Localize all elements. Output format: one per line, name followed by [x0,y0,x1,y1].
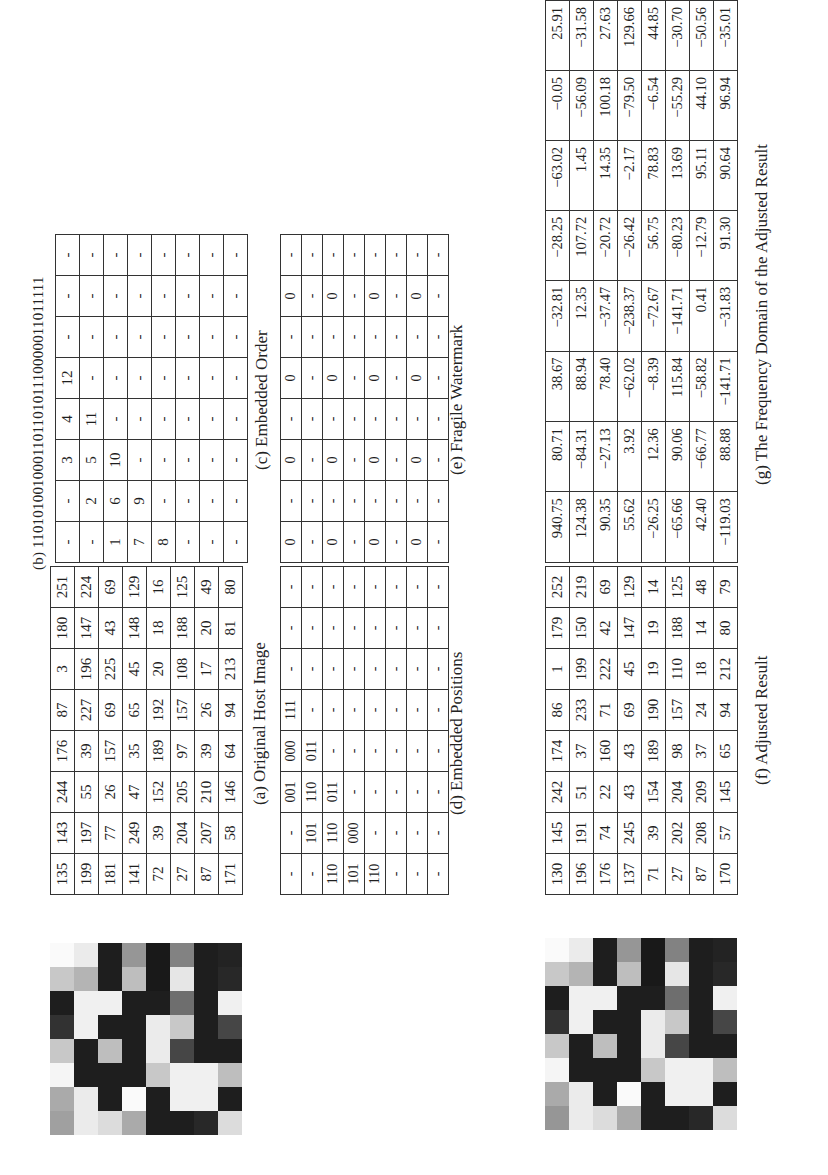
table-cell: −58.82 [690,351,714,422]
table-cell: 0 [281,522,302,563]
pixel [689,1034,713,1058]
table-cell: - [56,481,80,522]
table-cell: 87 [195,854,219,895]
table-cell: - [386,567,407,608]
adjusted-result-table: 1301452421748611792521961915137233199150… [545,566,738,895]
pixel [170,991,194,1015]
table-cell: 207 [195,813,219,854]
pixel [713,1034,737,1058]
table-cell: 204 [171,813,195,854]
table-cell: −35.01 [714,1,738,71]
table-row: −65.6690.06115.84−141.71−80.2313.69−55.2… [666,1,690,563]
table-cell: 124.38 [570,492,594,563]
pixel [194,1063,218,1087]
table-cell: - [152,276,176,317]
table-cell: 18 [690,649,714,690]
table-cell: - [365,399,386,440]
table-cell: 81 [219,608,243,649]
pixel [218,943,242,967]
pixel [617,986,641,1010]
table-cell: - [104,358,128,399]
table-cell: - [344,317,365,358]
table-cell: 110 [666,649,690,690]
table-cell: 3 [56,440,80,481]
table-cell: 130 [546,854,570,895]
table-row: 101000------ [344,567,365,895]
table-cell: - [176,276,200,317]
table-cell: - [407,854,428,895]
table-cell: 222 [594,649,618,690]
table-cell: −31.58 [570,1,594,71]
table-cell: 22 [594,772,618,813]
table-cell: - [386,440,407,481]
table-cell: - [152,235,176,276]
pixel [98,1111,122,1135]
table-cell: 19 [642,649,666,690]
table-row: --001000111--- [281,567,302,895]
table-cell: - [428,481,449,522]
table-cell: - [323,317,344,358]
table-cell: 44.85 [642,1,666,71]
pixel [98,1063,122,1087]
table-cell: 86 [546,690,570,731]
pixel [713,1106,737,1130]
table-cell: −30.70 [666,1,690,71]
table-cell: 157 [99,731,123,772]
table-cell: 192 [147,690,171,731]
table-cell: - [407,608,428,649]
table-cell: 157 [171,690,195,731]
table-cell: 13.69 [666,140,690,210]
table-cell: 72 [147,854,171,895]
table-cell: - [428,731,449,772]
table-cell: 147 [618,608,642,649]
table-row: -------- [428,235,449,563]
table-cell: - [200,358,224,399]
table-cell: 49 [195,567,219,608]
pixel [593,1034,617,1058]
table-cell: - [56,276,80,317]
table-cell: 0 [323,276,344,317]
table-cell: 2 [80,481,104,522]
pixel [569,1010,593,1034]
table-cell: - [386,481,407,522]
pixel [122,967,146,991]
table-cell: - [365,690,386,731]
table-cell: - [152,399,176,440]
pixel [146,1039,170,1063]
table-cell: - [344,440,365,481]
table-cell: 129 [618,567,642,608]
table-cell: 55 [75,772,99,813]
table-cell: - [200,399,224,440]
table-cell: - [386,358,407,399]
table-cell: - [428,235,449,276]
table-cell: 1 [104,522,128,563]
pixel [74,967,98,991]
table-cell: 39 [195,731,219,772]
adjusted-result-image-pixels [545,938,737,1130]
table-cell: - [344,481,365,522]
table-cell: - [80,358,104,399]
table-cell: - [323,481,344,522]
table-cell: - [407,317,428,358]
pixel [194,991,218,1015]
table-cell: 227 [75,690,99,731]
caption-e: (e) Fragile Watermark [447,325,467,475]
table-cell: −12.79 [690,210,714,280]
table-cell: 208 [690,813,714,854]
table-cell: - [386,235,407,276]
table-cell: 11 [80,399,104,440]
table-cell: 148 [123,608,147,649]
pixel [122,943,146,967]
table-cell: 18 [147,608,171,649]
table-row: 130145242174861179252 [546,567,570,895]
pixel [545,1106,569,1130]
table-cell: 78.83 [642,140,666,210]
pixel [146,1087,170,1111]
table-cell: 154 [642,772,666,813]
table-row: 1705714565942128079 [714,567,738,895]
pixel [593,962,617,986]
pixel [593,1082,617,1106]
table-cell: 3 [51,649,75,690]
table-cell: - [200,440,224,481]
table-cell: - [56,235,80,276]
